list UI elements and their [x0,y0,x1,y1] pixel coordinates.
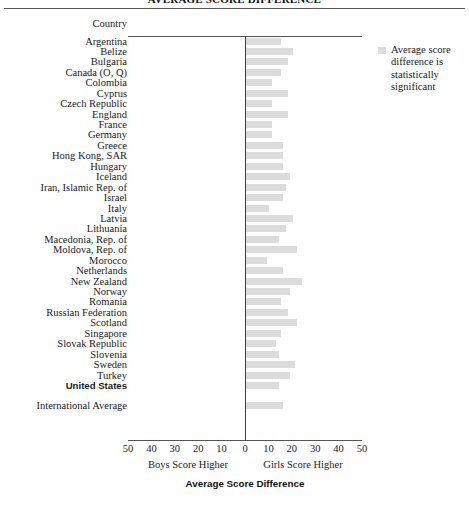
figure-title-strip: AVERAGE SCORE DIFFERENCE [0,0,469,7]
chart-bar [246,330,281,337]
chart-row-label: Iran, Islamic Rep. of [0,182,127,193]
chart-bar [246,142,283,149]
chart-bar [246,205,269,212]
x-axis-title: Average Score Difference [128,478,362,489]
chart-row-label: Greece [0,140,127,151]
chart-row: Scotland [0,318,469,328]
chart-row-label: Hong Kong, SAR [0,150,127,161]
x-tick-label: 50 [351,443,373,454]
chart-bar [246,79,272,86]
chart-row-label: Scotland [0,317,127,328]
chart-row: Macedonia, Rep. of [0,234,469,244]
chart-row-label: Belize [0,46,127,57]
chart-row-label: Morocco [0,255,127,266]
chart-row-label: Turkey [0,370,127,381]
chart-bar [246,278,302,285]
country-column-header: Country [0,18,127,30]
chart-row: Iceland [0,172,469,182]
chart-row-label: Slovenia [0,349,127,360]
chart-row: England [0,109,469,119]
chart-bar [246,382,279,389]
x-tick-label: 20 [187,443,209,454]
chart-row-label: Lithuania [0,223,127,234]
chart-bar [246,309,288,316]
top-rule [4,8,465,9]
chart-row: Norway [0,287,469,297]
chart-row: Czech Republic [0,99,469,109]
zero-tick-mark [245,436,246,441]
chart-row: Greece [0,140,469,150]
chart-row-label: Hungary [0,161,127,172]
chart-row: Italy [0,203,469,213]
chart-row-label: Germany [0,129,127,140]
x-tick-label: 50 [117,443,139,454]
chart-row-label: Macedonia, Rep. of [0,234,127,245]
chart-row: Slovenia [0,349,469,359]
chart-row: New Zealand [0,276,469,286]
chart-row-label: Czech Republic [0,98,127,109]
chart-row-label: Moldova, Rep. of [0,244,127,255]
chart-bar [246,90,288,97]
chart-row-label: Cyprus [0,88,127,99]
chart-bar [246,194,283,201]
chart-bar [246,257,267,264]
x-tick-label: 30 [304,443,326,454]
chart-row-label: Italy [0,203,127,214]
chart-bar [246,319,297,326]
x-axis-ticks: 504030201001020304050 [128,443,362,457]
chart-row: Israel [0,193,469,203]
chart-row: Hong Kong, SAR [0,151,469,161]
legend-label: Average score difference is statisticall… [391,44,467,94]
figure-title: AVERAGE SCORE DIFFERENCE [0,0,469,5]
chart-row: Lithuania [0,224,469,234]
chart-row-label: France [0,119,127,130]
x-tick-label: 40 [328,443,350,454]
chart-bar [246,184,286,191]
chart-row-label: Israel [0,192,127,203]
chart-row-label: Russian Federation [0,307,127,318]
chart-bar [246,58,288,65]
chart-row-label: United States [0,380,127,391]
chart-bar [246,225,286,232]
chart-bar [246,152,283,159]
chart-row-label: Netherlands [0,265,127,276]
boys-score-higher-label: Boys Score Higher [128,459,248,470]
chart-bar [246,236,279,243]
chart-row-label: Canada (O, Q) [0,67,127,78]
chart-bar [246,340,276,347]
chart-row-label: Latvia [0,213,127,224]
x-tick-label: 10 [211,443,233,454]
chart-row: Romania [0,297,469,307]
girls-score-higher-label: Girls Score Higher [243,459,363,470]
chart-row: Netherlands [0,266,469,276]
legend-swatch-icon [378,47,386,54]
chart-row-label: Argentina [0,36,127,47]
x-tick-label: 20 [281,443,303,454]
chart-row: Iran, Islamic Rep. of [0,182,469,192]
chart-bar [246,121,272,128]
chart-row-label: England [0,109,127,120]
chart-bar [246,38,281,45]
chart-bar [246,111,288,118]
summary-row: International Average [0,401,469,411]
chart-bar [246,215,293,222]
chart-row: Latvia [0,213,469,223]
chart-bar [246,402,283,409]
chart-bar [246,163,283,170]
chart-row: United States [0,380,469,390]
chart-row: Hungary [0,161,469,171]
chart-row-label: New Zealand [0,276,127,287]
chart-row: Germany [0,130,469,140]
chart-bar [246,246,297,253]
chart-row: Russian Federation [0,307,469,317]
chart-row: Slovak Republic [0,339,469,349]
chart-bar [246,288,290,295]
chart-row: Morocco [0,255,469,265]
chart-bar [246,298,281,305]
chart-bar [246,267,283,274]
chart-bar [246,48,293,55]
chart-row-label: Norway [0,286,127,297]
chart-bar [246,372,290,379]
x-tick-label: 30 [164,443,186,454]
chart-row-label: Slovak Republic [0,338,127,349]
